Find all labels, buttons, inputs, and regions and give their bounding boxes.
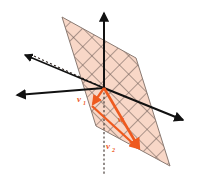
label-v1: v xyxy=(77,94,82,104)
figure-canvas: v 1 w v 2 xyxy=(0,0,198,183)
label-v2: v xyxy=(106,141,111,151)
label-w: w xyxy=(118,114,125,124)
label-v1-subscript: 1 xyxy=(83,100,86,106)
plane-polygon xyxy=(62,17,170,166)
label-v2-subscript: 2 xyxy=(111,147,115,153)
vector-diagram: v 1 w v 2 xyxy=(0,0,198,183)
shaded-grid-plane xyxy=(62,17,170,166)
